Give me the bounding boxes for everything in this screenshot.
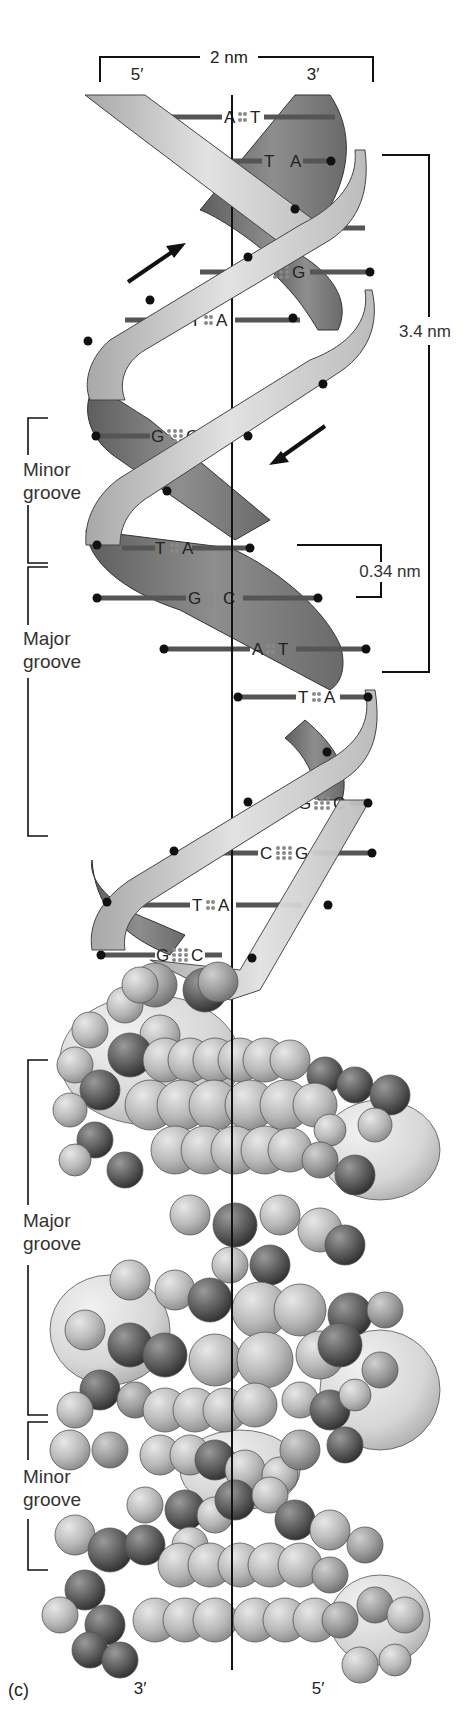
svg-text:Major: Major <box>23 1210 71 1231</box>
svg-text:A: A <box>324 688 336 707</box>
svg-text:G: G <box>292 263 305 282</box>
svg-text:T: T <box>155 539 165 558</box>
space-filling-model <box>42 962 440 1683</box>
svg-text:groove: groove <box>23 1489 81 1510</box>
width-dimension-bracket: 2 nm 5′ 3′ <box>100 48 373 84</box>
width-label: 2 nm <box>210 48 248 67</box>
svg-text:Major: Major <box>23 628 71 649</box>
svg-text:A: A <box>252 640 264 659</box>
svg-text:A: A <box>216 311 228 330</box>
upper-major-groove-bracket: Major groove <box>23 567 81 836</box>
svg-text:Minor: Minor <box>23 459 71 480</box>
panel-label: (c) <box>8 1680 29 1700</box>
svg-text:G: G <box>188 589 201 608</box>
helical-turn-label: 3.4 nm <box>399 322 451 341</box>
svg-text:A: A <box>224 108 236 127</box>
svg-text:C: C <box>223 589 235 608</box>
svg-text:T: T <box>264 152 274 171</box>
svg-text:T: T <box>298 688 308 707</box>
svg-text:C: C <box>260 844 272 863</box>
base-pair: T A <box>234 688 373 707</box>
svg-text:groove: groove <box>23 482 81 503</box>
strand-direction-arrow-down <box>269 426 325 465</box>
base-spacing-bracket: 0.34 nm <box>297 545 421 597</box>
svg-text:groove: groove <box>23 651 81 672</box>
strand-end-top-left: 5′ <box>131 65 144 84</box>
svg-text:A: A <box>290 152 302 171</box>
svg-text:G: G <box>151 427 164 446</box>
svg-text:C: C <box>191 946 203 965</box>
svg-text:Minor: Minor <box>23 1466 71 1487</box>
svg-text:A: A <box>182 539 194 558</box>
svg-text:A: A <box>218 896 230 915</box>
strand-end-bottom-right: 5′ <box>312 1679 325 1698</box>
helical-turn-bracket: 3.4 nm <box>382 155 451 672</box>
dna-double-helix-figure: 2 nm 5′ 3′ A T T A <box>0 0 472 1734</box>
strand-direction-arrow-up <box>128 243 186 282</box>
svg-text:groove: groove <box>23 1233 81 1254</box>
svg-text:T: T <box>250 108 260 127</box>
strand-end-top-right: 3′ <box>307 65 320 84</box>
base-spacing-label: 0.34 nm <box>359 562 420 581</box>
strand-end-bottom-left: 3′ <box>134 1679 147 1698</box>
svg-text:T: T <box>192 896 202 915</box>
upper-minor-groove-bracket: Minor groove <box>23 418 81 563</box>
svg-text:T: T <box>278 640 288 659</box>
